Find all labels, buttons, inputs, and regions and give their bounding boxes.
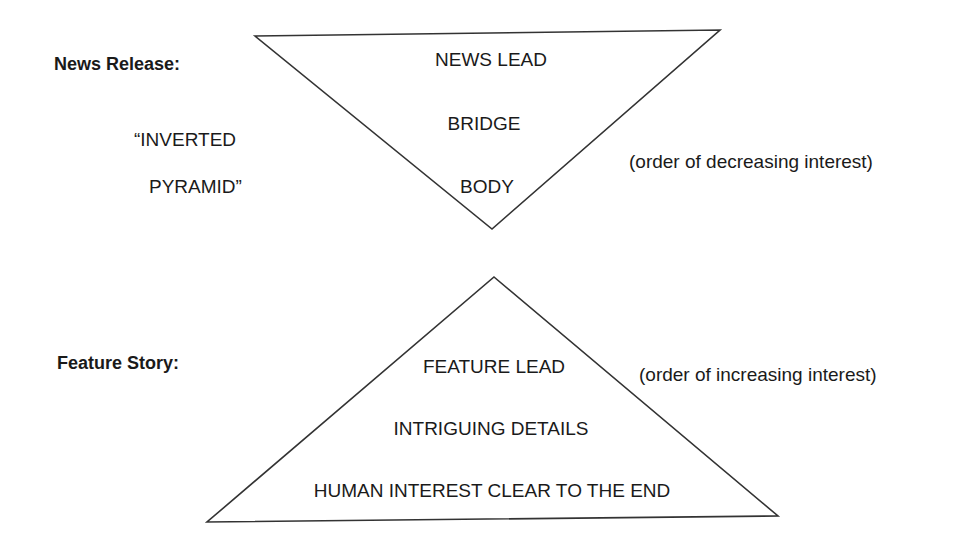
bridge-level: BRIDGE [448, 114, 521, 133]
feature-lead-level: FEATURE LEAD [423, 357, 565, 376]
news-release-label: News Release: [54, 55, 180, 73]
diagram-shapes [0, 0, 972, 550]
inverted-pyramid-caption-line1: “INVERTED [134, 130, 236, 149]
intriguing-details-level: INTRIGUING DETAILS [394, 419, 589, 438]
feature-story-label: Feature Story: [57, 354, 179, 372]
body-level: BODY [460, 177, 514, 196]
human-interest-level: HUMAN INTEREST CLEAR TO THE END [314, 481, 671, 500]
increasing-interest-note: (order of increasing interest) [639, 365, 877, 384]
inverted-pyramid-caption-line2: PYRAMID” [149, 177, 242, 196]
news-lead-level: NEWS LEAD [435, 50, 547, 69]
decreasing-interest-note: (order of decreasing interest) [629, 152, 873, 171]
